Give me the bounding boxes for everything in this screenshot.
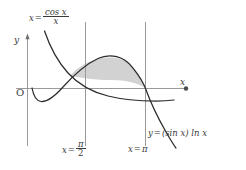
curve-label-sin-times-ln: y=(sin x) ln x	[148, 129, 207, 138]
curve-label-sinln-equals: =	[153, 128, 162, 138]
x-axis-label: x	[180, 78, 185, 87]
cos-numerator-text: cos x	[45, 7, 67, 17]
shaded-region	[71, 57, 146, 88]
curve-label-cos-denominator: x	[43, 17, 69, 26]
curve-label-cos-over-x: x=cos xx	[29, 9, 69, 27]
tick-pi-value: π	[142, 144, 148, 154]
y-axis-label: y	[14, 36, 19, 45]
figure-sin-ln-cos-over-x: y x O x=cos xx y=(sin x) ln x x=π2 x=π	[0, 0, 246, 170]
tick-pi-over-2-equals: =	[67, 145, 76, 155]
origin-label: O	[16, 88, 24, 98]
tick-label-pi: x=π	[128, 145, 148, 154]
tick-pi-over-2-denominator: 2	[76, 149, 86, 158]
y-axis-arrowhead	[25, 34, 29, 40]
tick-pi-equals: =	[133, 144, 142, 154]
tick-pi-over-2-fraction: π2	[76, 140, 86, 158]
curve-label-sinln-rhs: (sin x) ln x	[162, 128, 207, 138]
tick-label-pi-over-2: x=π2	[62, 141, 86, 159]
curve-label-cos-fraction: cos xx	[43, 8, 69, 26]
curve-label-cos-equals: =	[34, 13, 43, 23]
